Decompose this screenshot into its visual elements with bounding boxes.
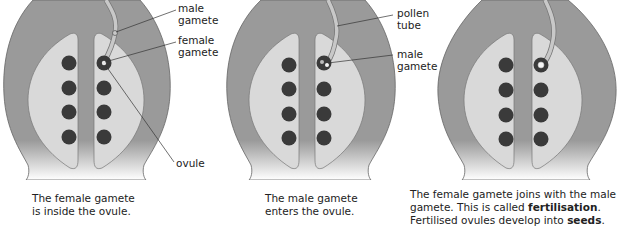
ovule — [534, 83, 549, 98]
ovule — [282, 82, 297, 97]
female-gamete — [320, 60, 324, 64]
term-fertilisation: fertilisation — [528, 201, 597, 213]
ovule — [317, 82, 332, 97]
ovule — [62, 81, 77, 96]
panel-female-gamete-in-ovule: male gamete female gamete ovule The fema… — [0, 0, 211, 233]
term-seeds: seeds — [567, 214, 601, 226]
ovule — [317, 131, 332, 146]
label-ovule: ovule — [176, 157, 205, 169]
ovule — [499, 58, 514, 73]
male-gamete — [113, 31, 118, 36]
ovary-diagram-3 — [422, 0, 633, 180]
female-gamete — [102, 61, 106, 65]
ovule — [97, 130, 112, 145]
ovule — [534, 108, 549, 123]
ovule — [534, 132, 549, 147]
ovule — [97, 105, 112, 120]
ovule — [499, 108, 514, 123]
caption-panel-1: The female gamete is inside the ovule. — [32, 192, 135, 218]
male-gamete — [325, 63, 329, 67]
ovule — [282, 107, 297, 122]
ovule — [62, 105, 77, 120]
ovule — [499, 132, 514, 147]
ovule — [282, 58, 297, 73]
ovary-diagram-2 — [211, 0, 422, 180]
ovule — [97, 81, 112, 96]
caption-panel-2: The male gamete enters the ovule. — [265, 192, 358, 218]
caption-panel-3: The female gamete joins with the male ga… — [410, 188, 616, 227]
ovule — [62, 56, 77, 71]
zygote — [538, 62, 544, 68]
panel-fertilisation: The female gamete joins with the male ga… — [422, 0, 633, 233]
ovule — [282, 131, 297, 146]
panel-male-gamete-enters: pollen tube male gamete The male gamete … — [211, 0, 422, 233]
ovule — [499, 83, 514, 98]
ovule — [62, 130, 77, 145]
ovary-diagram-1 — [0, 0, 211, 180]
ovule — [317, 107, 332, 122]
